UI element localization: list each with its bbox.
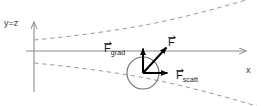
- f-grad-subscript: grad: [111, 49, 125, 56]
- f-resultant-symbol: F: [168, 37, 175, 48]
- figure-canvas: [0, 0, 263, 106]
- beam-lower-curve: [34, 63, 263, 106]
- f-grad-symbol: F: [104, 43, 111, 54]
- f-scatt-subscript: scatt: [183, 76, 198, 83]
- f-grad-label: F grad: [104, 39, 125, 55]
- f-scatt-symbol: F: [176, 70, 183, 81]
- f-scatt-label: F scatt: [176, 66, 198, 82]
- optical-trap-figure: y=z x F grad F F scatt: [0, 0, 263, 106]
- f-scatt-letter: F: [176, 69, 183, 81]
- f-resultant-label: F: [168, 33, 175, 49]
- beam-upper-curve: [34, 0, 263, 40]
- y-axis-label: y=z: [4, 19, 18, 28]
- f-grad-letter: F: [104, 42, 111, 54]
- f-resultant-letter: F: [168, 36, 175, 48]
- x-axis-label: x: [246, 66, 251, 75]
